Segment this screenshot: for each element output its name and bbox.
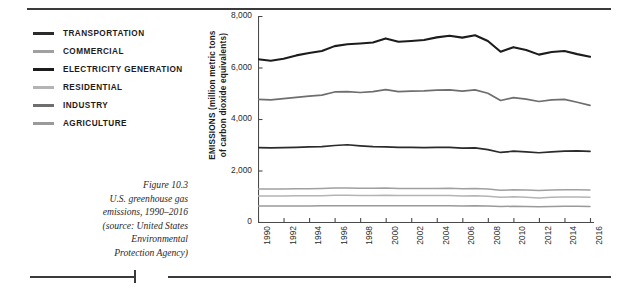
x-tick-label: 2014 bbox=[568, 226, 578, 245]
caption-line: emissions, 1990–2016 bbox=[20, 205, 188, 219]
legend-swatch-icon bbox=[33, 122, 54, 125]
x-tick-label: 2012 bbox=[543, 226, 553, 245]
x-tick-label: 2002 bbox=[415, 226, 425, 245]
y-tick-label: 4,000 bbox=[231, 113, 252, 123]
legend-swatch-icon bbox=[33, 50, 54, 53]
legend-item: ELECTRICITY GENERATION bbox=[33, 60, 213, 78]
bottom-right-rule bbox=[168, 276, 611, 278]
caption-line: Figure 10.3 bbox=[20, 178, 188, 192]
x-tick-label: 1996 bbox=[339, 226, 349, 245]
caption-line: Protection Agency) bbox=[20, 246, 188, 260]
line-plot bbox=[258, 16, 590, 222]
legend-item-label: ELECTRICITY GENERATION bbox=[63, 65, 183, 74]
x-tick-label: 2006 bbox=[466, 226, 476, 245]
caption-line: Environmental bbox=[20, 232, 188, 246]
chart-area: EMISSIONS (million metric tonsof carbon … bbox=[196, 16, 606, 266]
legend-item: TRANSPORTATION bbox=[33, 24, 213, 42]
x-tick-label: 2010 bbox=[517, 226, 527, 245]
plot-svg bbox=[258, 16, 596, 223]
legend-item-label: AGRICULTURE bbox=[63, 119, 127, 128]
legend-item: COMMERCIAL bbox=[33, 42, 213, 60]
legend-item: RESIDENTIAL bbox=[33, 78, 213, 96]
caption-line: (source: United States bbox=[20, 219, 188, 233]
y-tick-label: 6,000 bbox=[231, 62, 252, 72]
legend-item: AGRICULTURE bbox=[33, 114, 213, 132]
figure-container: TRANSPORTATIONCOMMERCIALELECTRICITY GENE… bbox=[0, 0, 618, 289]
x-tick-label: 2016 bbox=[594, 226, 604, 245]
series-line bbox=[258, 35, 590, 61]
legend-swatch-icon bbox=[33, 32, 54, 35]
series-line bbox=[258, 145, 590, 153]
x-tick-label: 2000 bbox=[390, 226, 400, 245]
series-line bbox=[258, 206, 590, 207]
y-axis-tick-labels: 8,0006,0004,0002,0000 bbox=[196, 16, 252, 222]
top-rule bbox=[27, 8, 611, 10]
y-tick-label: 0 bbox=[247, 216, 252, 226]
series-line bbox=[258, 90, 590, 106]
x-tick-label: 1990 bbox=[262, 226, 272, 245]
x-tick-label: 2008 bbox=[492, 226, 502, 245]
figure-caption: Figure 10.3U.S. greenhouse gasemissions,… bbox=[20, 178, 188, 260]
legend-item-label: TRANSPORTATION bbox=[63, 29, 145, 38]
legend-swatch-icon bbox=[33, 104, 54, 107]
bottom-left-rule bbox=[30, 276, 135, 278]
x-tick-label: 1998 bbox=[364, 226, 374, 245]
legend-swatch-icon bbox=[33, 86, 54, 89]
bottom-left-rule-cap bbox=[134, 270, 136, 283]
legend-item-label: COMMERCIAL bbox=[63, 47, 124, 56]
series-line bbox=[258, 195, 590, 198]
x-tick-label: 1994 bbox=[313, 226, 323, 245]
x-tick-label: 2004 bbox=[441, 226, 451, 245]
x-axis-tick-labels: 1990199219941996199820002002200420062008… bbox=[258, 226, 590, 272]
caption-line: U.S. greenhouse gas bbox=[20, 192, 188, 206]
legend-item-label: RESIDENTIAL bbox=[63, 83, 123, 92]
x-tick-label: 1992 bbox=[288, 226, 298, 245]
series-line bbox=[258, 188, 590, 191]
legend-item: INDUSTRY bbox=[33, 96, 213, 114]
chart-legend: TRANSPORTATIONCOMMERCIALELECTRICITY GENE… bbox=[33, 24, 213, 132]
y-tick-label: 8,000 bbox=[231, 10, 252, 20]
y-tick-label: 2,000 bbox=[231, 165, 252, 175]
legend-item-label: INDUSTRY bbox=[63, 101, 108, 110]
legend-swatch-icon bbox=[33, 68, 54, 71]
